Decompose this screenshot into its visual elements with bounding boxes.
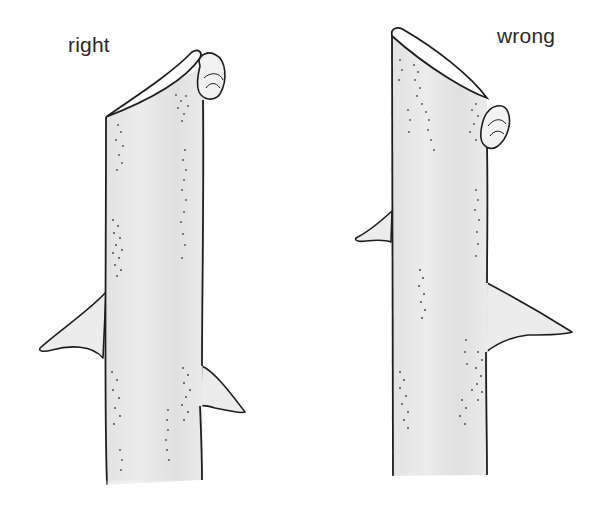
- pruning-illustration: [0, 0, 610, 520]
- stem-wrong-cut: [356, 28, 572, 485]
- thorn-right: [200, 366, 245, 413]
- stem-right-cut: [40, 50, 245, 490]
- bud-icon: [197, 53, 224, 99]
- thorn-left: [356, 211, 392, 242]
- stem-body: [392, 36, 488, 476]
- thorn-left: [40, 292, 106, 358]
- stem-body: [105, 70, 205, 485]
- thorn-right: [486, 283, 572, 352]
